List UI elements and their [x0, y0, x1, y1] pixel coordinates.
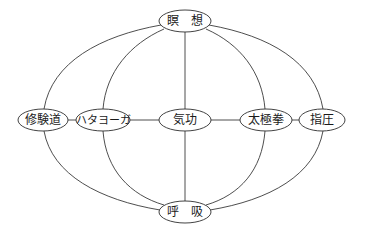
- edge-meditation-hatha-yoga: [103, 29, 164, 109]
- node-shugendo: 修験道: [18, 109, 68, 131]
- node-label-shiatsu: 指圧: [310, 112, 334, 127]
- edge-meditation-tai-chi: [206, 29, 265, 109]
- node-tai-chi: 太極拳: [240, 109, 292, 131]
- node-hatha-yoga: ハタヨーガ: [76, 109, 131, 131]
- node-meditation: 瞑 想: [159, 10, 211, 32]
- node-label-tai-chi: 太極拳: [248, 112, 284, 127]
- mind-body-practice-diagram: 瞑 想 修験道 ハタヨーガ 気功 太極拳 指圧 呼 吸: [0, 0, 365, 235]
- edge-meditation-shiatsu: [209, 25, 323, 109]
- node-label-breathing: 呼 吸: [167, 205, 203, 219]
- node-shiatsu: 指圧: [299, 109, 345, 131]
- edge-meditation-shugendo: [44, 25, 161, 109]
- node-qigong: 気功: [159, 109, 211, 131]
- node-breathing: 呼 吸: [159, 201, 211, 223]
- edge-breathing-shugendo: [44, 131, 160, 210]
- node-label-hatha-yoga: ハタヨーガ: [76, 114, 131, 127]
- node-label-qigong: 気功: [173, 112, 197, 127]
- edge-breathing-tai-chi: [206, 131, 265, 205]
- edge-breathing-shiatsu: [210, 131, 323, 210]
- node-label-shugendo: 修験道: [25, 112, 61, 127]
- node-label-meditation: 瞑 想: [167, 13, 203, 28]
- edge-breathing-hatha-yoga: [103, 131, 164, 205]
